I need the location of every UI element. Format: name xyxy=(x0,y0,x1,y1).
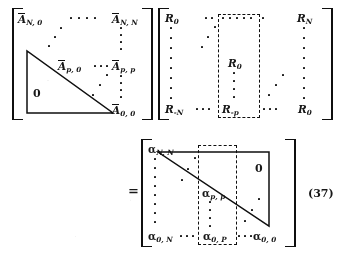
matrix-r-right-col-dots xyxy=(303,27,307,99)
matrix-alpha-center-col-dots xyxy=(209,201,213,225)
matrix-a-right-bracket xyxy=(142,8,153,120)
matrix-r-entry-bottom-left: R-N xyxy=(165,104,183,116)
matrix-a-entry-top-right-sub: N, N xyxy=(120,18,138,27)
matrix-r-top-row-dots-left xyxy=(205,17,219,21)
matrix-a-right-col-dots-upper xyxy=(120,27,124,53)
matrix-a-entry-top-left-sub: N, 0 xyxy=(26,18,42,27)
matrix-r-diagonal-dots-upper xyxy=(198,26,220,54)
matrix-r-entry-top-left: R0 xyxy=(165,13,179,25)
matrix-a-entry-mid-right-sub: p, p xyxy=(120,65,135,74)
matrix-r-highlight-column xyxy=(218,14,260,118)
matrix-r-entry-top-left-sub: 0 xyxy=(174,17,179,26)
matrix-a-zero-triangle xyxy=(25,47,117,117)
matrix-r-diagonal-dots-lower xyxy=(264,74,288,102)
matrix-alpha-right-bracket xyxy=(285,139,296,247)
matrix-r-entry-top-right: RN xyxy=(297,13,312,25)
matrix-r-top-row-dots-inner xyxy=(222,17,258,21)
matrix-r-entry-bottom-right-sub: 0 xyxy=(307,108,312,117)
matrix-alpha-entry-bottom-right-sub: 0, 0 xyxy=(261,235,276,244)
matrix-r-top-row-dots-right xyxy=(262,17,270,21)
matrix-a-entry-bottom-right-sub: 0, 0 xyxy=(120,109,135,118)
matrix-alpha-bottom-row-dots-right xyxy=(238,235,258,239)
matrix-alpha-diagonal-dots-upper xyxy=(178,157,200,187)
matrix-alpha-entry-bottom-left: α0, N xyxy=(148,231,173,243)
matrix-alpha-zero-label: 0 xyxy=(255,163,263,174)
matrix-r-entry-bottom-right: R0 xyxy=(298,104,312,116)
equation-figure: { "figure": { "equation_number": "(37)",… xyxy=(0,0,343,260)
matrix-r-bottom-row-dots-left xyxy=(196,108,216,112)
matrix-a-zero-label: 0 xyxy=(33,88,41,99)
matrix-r-entry-bottom-left-sub: -N xyxy=(174,108,184,117)
matrix-alpha-left-col-dots xyxy=(154,158,158,224)
matrix-alpha-entry-bottom-left-sub: 0, N xyxy=(156,235,173,244)
matrix-r-bottom-row-dots-right xyxy=(263,108,285,112)
matrix-r-left-col-dots xyxy=(170,27,174,99)
matrix-a-entry-top-right: AN, N xyxy=(112,13,138,26)
matrix-a-entry-top-left: AN, 0 xyxy=(18,13,42,26)
matrix-alpha-bottom-row-dots-left xyxy=(180,235,200,239)
matrix-a-top-row-dots xyxy=(70,17,104,21)
matrix-r-center-col-dots xyxy=(233,72,237,98)
equation-number: (37) xyxy=(308,187,334,200)
matrix-a-right-col-dots-lower xyxy=(120,75,124,99)
matrix-alpha-diagonal-dots-lower xyxy=(240,198,264,228)
matrix-r-right-bracket xyxy=(322,8,333,120)
equals-sign: = xyxy=(128,184,139,197)
matrix-r-entry-top-right-sub: N xyxy=(306,17,313,26)
